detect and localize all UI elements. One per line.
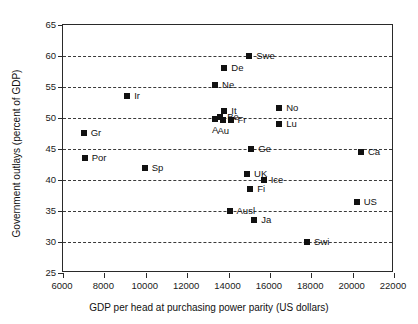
x-axis-title: GDP per head at purchasing power parity … <box>0 302 418 313</box>
y-tick-label: 50 <box>26 112 56 123</box>
data-point-label: De <box>231 64 243 74</box>
data-point-label: Ne <box>222 80 234 90</box>
x-tick-label: 16000 <box>256 280 282 291</box>
data-point-marker <box>212 82 218 88</box>
scatter-chart-figure: SweDeNeIrNoLuItBeAuAFrGrPorSpGeCaUKIceFi… <box>0 0 418 324</box>
data-point-marker <box>244 171 250 177</box>
y-tick-mark <box>58 180 63 181</box>
y-axis-title: Government outlays (percent of GDP) <box>11 54 22 254</box>
data-point-marker <box>248 146 254 152</box>
y-tick-mark <box>58 242 63 243</box>
data-point-label: Swi <box>314 237 329 247</box>
gridline <box>63 242 392 243</box>
data-point-marker <box>228 117 234 123</box>
x-tick-label: 14000 <box>214 280 240 291</box>
data-point-marker <box>220 117 226 123</box>
data-point-label: Swe <box>256 51 274 61</box>
y-tick-label: 25 <box>26 267 56 278</box>
x-tick-mark <box>229 273 230 278</box>
x-tick-label: 10000 <box>132 280 158 291</box>
x-tick-mark <box>63 273 64 278</box>
data-point-label: Au <box>218 126 230 136</box>
data-point-label: Lu <box>286 119 297 129</box>
y-tick-label: 65 <box>26 19 56 30</box>
data-point-marker <box>124 93 130 99</box>
y-tick-label: 35 <box>26 205 56 216</box>
data-point-marker <box>81 130 87 136</box>
data-point-marker <box>304 239 310 245</box>
data-point-label: US <box>364 197 377 207</box>
x-tick-label: 22000 <box>380 280 406 291</box>
x-tick-mark <box>270 273 271 278</box>
plot-area: SweDeNeIrNoLuItBeAuAFrGrPorSpGeCaUKIceFi… <box>62 24 393 272</box>
gridline <box>63 56 392 57</box>
x-tick-label: 12000 <box>173 280 199 291</box>
x-tick-mark <box>187 273 188 278</box>
data-point-marker <box>247 186 253 192</box>
data-point-label: Ice <box>271 175 284 185</box>
data-point-marker <box>227 208 233 214</box>
data-point-label: Sp <box>152 163 164 173</box>
data-point-label: Gr <box>91 128 102 138</box>
data-point-marker <box>358 149 364 155</box>
data-point-label: A <box>212 125 218 135</box>
x-tick-label: 20000 <box>338 280 364 291</box>
x-tick-mark <box>146 273 147 278</box>
x-tick-mark <box>311 273 312 278</box>
y-tick-label: 30 <box>26 236 56 247</box>
data-point-marker <box>246 53 252 59</box>
gridline <box>63 149 392 150</box>
data-point-marker <box>276 121 282 127</box>
data-point-label: Por <box>92 154 107 164</box>
x-tick-label: 6000 <box>51 280 72 291</box>
x-tick-mark <box>353 273 354 278</box>
data-point-label: Ausl <box>237 206 255 216</box>
data-point-marker <box>354 199 360 205</box>
y-tick-mark <box>58 25 63 26</box>
y-tick-mark <box>58 149 63 150</box>
data-point-label: No <box>286 103 298 113</box>
y-tick-mark <box>58 56 63 57</box>
data-point-marker <box>221 65 227 71</box>
data-point-marker <box>142 165 148 171</box>
y-tick-mark <box>58 118 63 119</box>
x-tick-mark <box>104 273 105 278</box>
y-tick-mark <box>58 211 63 212</box>
gridline <box>63 180 392 181</box>
data-point-marker <box>212 116 218 122</box>
data-point-label: Ge <box>258 144 271 154</box>
y-tick-mark <box>58 87 63 88</box>
data-point-marker <box>82 155 88 161</box>
y-tick-label: 45 <box>26 143 56 154</box>
y-tick-label: 55 <box>26 81 56 92</box>
y-tick-label: 40 <box>26 174 56 185</box>
data-point-label: Fr <box>238 116 247 126</box>
y-tick-label: 60 <box>26 50 56 61</box>
data-point-label: Fi <box>257 184 265 194</box>
x-tick-mark <box>394 273 395 278</box>
data-point-label: Ir <box>134 92 140 102</box>
data-point-label: Ja <box>261 216 271 226</box>
x-tick-label: 18000 <box>297 280 323 291</box>
data-point-label: Ca <box>368 147 380 157</box>
x-tick-label: 8000 <box>93 280 114 291</box>
data-point-marker <box>276 105 282 111</box>
data-point-marker <box>251 217 257 223</box>
